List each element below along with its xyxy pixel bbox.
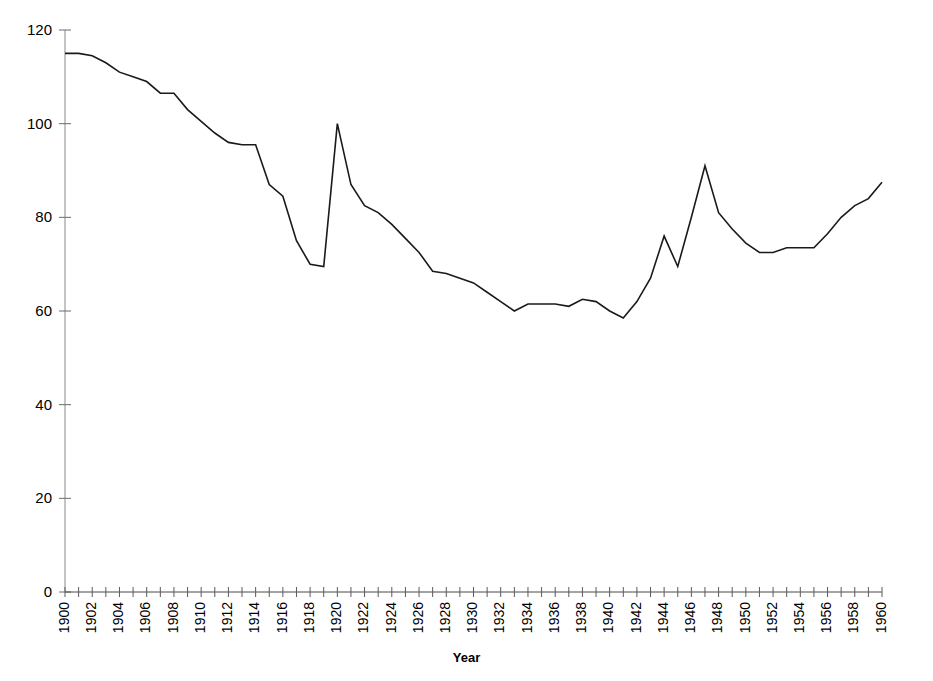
x-tick-label: 1954 — [791, 602, 807, 633]
x-tick-label: 1922 — [355, 602, 371, 633]
x-tick-label: 1916 — [274, 602, 290, 633]
x-axis: 1900190219041906190819101912191419161918… — [56, 587, 889, 633]
x-tick-label: 1914 — [246, 602, 262, 633]
x-tick-label: 1928 — [437, 602, 453, 633]
x-tick-label: 1936 — [546, 602, 562, 633]
x-tick-label: 1904 — [110, 602, 126, 633]
x-tick-label: 1948 — [709, 602, 725, 633]
y-tick-label: 100 — [27, 115, 52, 132]
x-tick-label: 1906 — [137, 602, 153, 633]
x-tick-label: 1910 — [192, 602, 208, 633]
x-tick-label: 1940 — [600, 602, 616, 633]
x-tick-label: 1908 — [165, 602, 181, 633]
y-tick-label: 40 — [35, 396, 52, 413]
x-tick-label: 1900 — [56, 602, 72, 633]
x-tick-label: 1926 — [410, 602, 426, 633]
y-tick-label: 60 — [35, 302, 52, 319]
x-tick-label: 1920 — [328, 602, 344, 633]
x-tick-label: 1958 — [845, 602, 861, 633]
y-tick-label: 0 — [44, 583, 52, 600]
x-tick-label: 1912 — [219, 602, 235, 633]
y-tick-label: 80 — [35, 208, 52, 225]
x-tick-label: 1938 — [573, 602, 589, 633]
x-tick-label: 1944 — [655, 602, 671, 633]
chart-container: 020406080100120 190019021904190619081910… — [0, 0, 933, 681]
y-tick-label: 20 — [35, 489, 52, 506]
x-tick-label: 1924 — [383, 602, 399, 633]
x-tick-label: 1946 — [682, 602, 698, 633]
x-tick-label: 1932 — [491, 602, 507, 633]
series-line — [65, 53, 882, 318]
line-chart-plot: 020406080100120 190019021904190619081910… — [0, 0, 933, 681]
x-tick-label: 1952 — [764, 602, 780, 633]
x-tick-label: 1930 — [464, 602, 480, 633]
data-series — [65, 53, 882, 318]
x-axis-title: Year — [0, 650, 933, 665]
x-tick-label: 1934 — [519, 602, 535, 633]
x-tick-label: 1942 — [628, 602, 644, 633]
x-tick-label: 1950 — [737, 602, 753, 633]
x-tick-label: 1918 — [301, 602, 317, 633]
x-tick-label: 1956 — [818, 602, 834, 633]
y-axis: 020406080100120 — [27, 21, 71, 600]
y-tick-label: 120 — [27, 21, 52, 38]
x-tick-label: 1902 — [83, 602, 99, 633]
x-tick-label: 1960 — [873, 602, 889, 633]
